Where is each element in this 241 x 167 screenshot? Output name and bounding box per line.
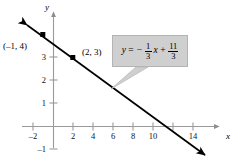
x-tick-label-10: 10 bbox=[145, 132, 161, 141]
equation-expression: y = − 1 3 x + 11 3 bbox=[121, 42, 180, 61]
intercept-fraction: 11 3 bbox=[168, 42, 178, 61]
slope-denominator: 3 bbox=[145, 52, 151, 61]
y-axis-name: y bbox=[45, 3, 49, 12]
point-label-2-3: (2, 3) bbox=[82, 48, 102, 57]
y-tick-label-3: 3 bbox=[36, 53, 46, 62]
equation-plus: + bbox=[159, 46, 167, 56]
equation-slope-sign: − bbox=[135, 46, 143, 56]
y-tick-label--1: –1 bbox=[31, 145, 46, 154]
x-axis bbox=[22, 123, 219, 131]
intercept-numerator: 11 bbox=[168, 42, 178, 51]
equation-callout-box: y = − 1 3 x + 11 3 bbox=[112, 35, 188, 67]
x-tick-label-6: 6 bbox=[105, 132, 121, 141]
equation-equals: = bbox=[127, 46, 135, 56]
y-tick-label-1: 1 bbox=[36, 99, 46, 108]
data-point-marker-2 bbox=[70, 55, 75, 60]
intercept-denominator: 3 bbox=[170, 52, 176, 61]
x-tick-label-2: 2 bbox=[65, 132, 81, 141]
slope-numerator: 1 bbox=[145, 42, 151, 51]
data-point-marker-1 bbox=[40, 32, 45, 37]
x-tick-label--2: –2 bbox=[25, 132, 41, 141]
x-axis-name: x bbox=[226, 132, 230, 141]
x-tick-label-14: 14 bbox=[185, 132, 201, 141]
y-axis bbox=[50, 12, 58, 149]
graph-figure: y x –2 2 4 6 8 10 14 3 2 1 –1 (–1, 4) (2… bbox=[0, 0, 241, 167]
point-label-minus1-4: (–1, 4) bbox=[3, 42, 27, 51]
slope-fraction: 1 3 bbox=[145, 42, 152, 61]
y-tick-label-2: 2 bbox=[36, 76, 46, 85]
x-tick-label-8: 8 bbox=[125, 132, 141, 141]
x-tick-label-4: 4 bbox=[85, 132, 101, 141]
callout-tail bbox=[111, 67, 148, 89]
